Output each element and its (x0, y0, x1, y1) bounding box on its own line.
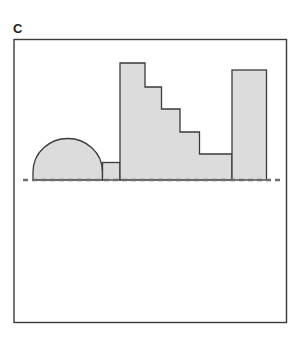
small-block (103, 163, 121, 181)
dome-shape (33, 139, 103, 181)
tall-block (232, 70, 267, 180)
staircase-shape (120, 63, 232, 180)
diagram (0, 0, 303, 339)
